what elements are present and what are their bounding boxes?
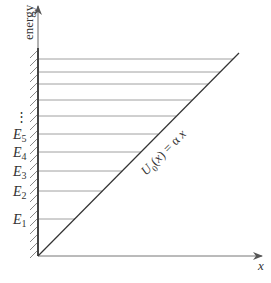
hard-wall-hatch <box>30 50 38 258</box>
label-e4: E4 <box>12 145 27 162</box>
label-e3: E3 <box>12 164 27 181</box>
label-e2: E2 <box>12 184 27 201</box>
label-e1: E1 <box>12 212 27 229</box>
label-e5: E5 <box>12 127 27 144</box>
energy-labels: E1 E2 E3 E4 E5 <box>12 127 27 229</box>
potential-line <box>38 53 239 256</box>
triangular-well-diagram: energy x E1 E2 E3 E4 E5 ⋮ U0(x) = α x <box>0 0 271 283</box>
ellipsis-label: ⋮ <box>15 109 28 124</box>
y-axis-label: energy <box>21 4 36 40</box>
x-axis-label: x <box>257 258 264 273</box>
energy-level-lines <box>38 59 233 219</box>
